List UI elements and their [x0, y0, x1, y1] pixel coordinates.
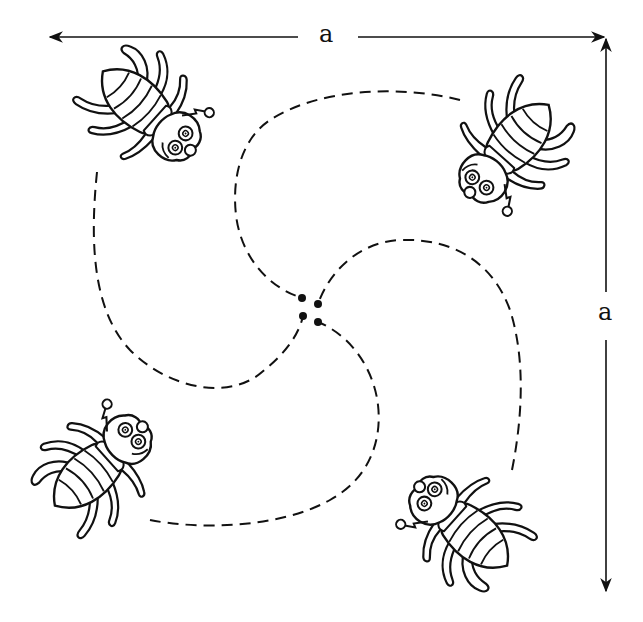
- path-bottom-left: [150, 322, 379, 525]
- path-bottom-right: [318, 240, 521, 470]
- bug-bottom-right-icon: [380, 443, 546, 608]
- center-dot-1: [298, 294, 306, 302]
- diagram-canvas: a a: [0, 0, 643, 622]
- pursuit-paths: [94, 91, 521, 525]
- bug-top-left-icon: [64, 29, 230, 194]
- center-dot-4: [314, 318, 322, 326]
- dimension-label-top: a: [315, 22, 337, 46]
- path-top-right: [235, 91, 460, 298]
- bug-top-right-icon: [426, 66, 591, 232]
- diagram-svg: [0, 0, 643, 622]
- dimension-label-right: a: [594, 300, 616, 324]
- center-dot-2: [314, 300, 322, 308]
- bug-bottom-left-icon: [16, 383, 182, 548]
- path-top-left: [94, 172, 303, 388]
- center-dot-3: [299, 312, 307, 320]
